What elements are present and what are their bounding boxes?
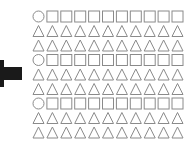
triangle-shape — [158, 113, 169, 124]
square-shape — [75, 98, 86, 109]
square-shape — [75, 11, 86, 22]
triangle-shape — [116, 69, 127, 80]
square-shape — [47, 11, 58, 22]
square-shape — [61, 98, 72, 109]
triangle-shape — [47, 127, 58, 138]
square-shape — [103, 98, 114, 109]
triangle-shape — [130, 113, 141, 124]
circle-shape — [33, 98, 44, 109]
triangle-shape — [116, 127, 127, 138]
triangle-shape — [103, 40, 114, 51]
triangle-shape — [158, 127, 169, 138]
square-shape — [116, 11, 127, 22]
triangle-shape — [33, 40, 44, 51]
square-shape — [144, 11, 155, 22]
square-shape — [172, 98, 183, 109]
square-shape — [130, 11, 141, 22]
triangle-shape — [172, 84, 183, 95]
square-shape — [116, 55, 127, 66]
triangle-shape — [144, 113, 155, 124]
triangle-shape — [103, 69, 114, 80]
triangle-shape — [33, 26, 44, 37]
triangle-shape — [116, 84, 127, 95]
triangle-shape — [61, 69, 72, 80]
triangle-shape — [75, 69, 86, 80]
square-shape — [89, 98, 100, 109]
square-shape — [130, 55, 141, 66]
triangle-shape — [172, 26, 183, 37]
square-shape — [89, 55, 100, 66]
circle-shape — [33, 11, 44, 22]
shape-grid-svg — [32, 10, 185, 141]
triangle-shape — [144, 40, 155, 51]
triangle-shape — [33, 84, 44, 95]
square-shape — [89, 11, 100, 22]
triangle-shape — [130, 26, 141, 37]
triangle-shape — [144, 84, 155, 95]
triangle-shape — [158, 40, 169, 51]
triangle-shape — [172, 40, 183, 51]
square-shape — [144, 98, 155, 109]
triangle-shape — [33, 127, 44, 138]
triangle-shape — [172, 69, 183, 80]
triangle-shape — [144, 127, 155, 138]
triangle-shape — [61, 127, 72, 138]
shape-grid — [32, 10, 185, 141]
triangle-shape — [61, 84, 72, 95]
triangle-shape — [61, 40, 72, 51]
square-shape — [103, 55, 114, 66]
triangle-shape — [47, 40, 58, 51]
square-shape — [172, 55, 183, 66]
square-shape — [75, 55, 86, 66]
triangle-shape — [89, 69, 100, 80]
triangle-shape — [33, 69, 44, 80]
triangle-shape — [47, 26, 58, 37]
square-shape — [158, 11, 169, 22]
square-shape — [61, 11, 72, 22]
triangle-shape — [47, 69, 58, 80]
triangle-shape — [103, 127, 114, 138]
triangle-shape — [116, 113, 127, 124]
triangle-shape — [158, 69, 169, 80]
square-shape — [61, 55, 72, 66]
triangle-shape — [116, 26, 127, 37]
triangle-shape — [103, 84, 114, 95]
square-shape — [47, 98, 58, 109]
triangle-shape — [75, 40, 86, 51]
square-shape — [103, 11, 114, 22]
triangle-shape — [33, 113, 44, 124]
square-shape — [172, 11, 183, 22]
triangle-shape — [75, 84, 86, 95]
triangle-shape — [89, 84, 100, 95]
triangle-shape — [172, 113, 183, 124]
square-shape — [116, 98, 127, 109]
square-shape — [47, 55, 58, 66]
square-shape — [158, 98, 169, 109]
triangle-shape — [144, 26, 155, 37]
triangle-shape — [130, 127, 141, 138]
triangle-shape — [89, 113, 100, 124]
triangle-shape — [116, 40, 127, 51]
triangle-shape — [130, 84, 141, 95]
triangle-shape — [89, 127, 100, 138]
triangle-shape — [89, 40, 100, 51]
triangle-shape — [130, 69, 141, 80]
triangle-shape — [158, 84, 169, 95]
square-shape — [158, 55, 169, 66]
triangle-shape — [75, 113, 86, 124]
circle-shape — [33, 55, 44, 66]
triangle-shape — [103, 113, 114, 124]
triangle-shape — [103, 26, 114, 37]
triangle-shape — [89, 26, 100, 37]
square-shape — [144, 55, 155, 66]
triangle-shape — [61, 26, 72, 37]
square-shape — [130, 98, 141, 109]
triangle-shape — [47, 113, 58, 124]
triangle-shape — [130, 40, 141, 51]
triangle-shape — [61, 113, 72, 124]
triangle-shape — [75, 26, 86, 37]
arrow-shaft — [3, 67, 22, 80]
triangle-shape — [144, 69, 155, 80]
triangle-shape — [47, 84, 58, 95]
triangle-shape — [158, 26, 169, 37]
